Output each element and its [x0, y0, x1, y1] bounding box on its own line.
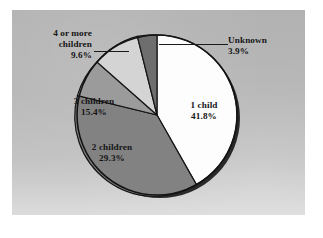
slice-label-line1: 1 child [173, 100, 235, 111]
slice-label-line1: 4 or more [26, 28, 92, 39]
slice-label-line1: 3 children [58, 96, 130, 107]
slice-label-value: 15.4% [58, 107, 130, 118]
slice-label-one-child: 1 child 41.8% [173, 100, 235, 122]
slice-label-value: 41.8% [173, 111, 235, 122]
slice-label-value: 3.9% [228, 46, 267, 57]
slice-label-value: 29.3% [76, 153, 148, 164]
slice-label-line1: Unknown [228, 35, 267, 46]
leader-line-four-or-more-children [94, 51, 129, 52]
slice-label-two-children: 2 children 29.3% [76, 142, 148, 164]
slice-label-value: 9.6% [26, 50, 92, 61]
pie-chart-figure: 4 or more children 9.6% Unknown 3.9% 3 c… [0, 0, 323, 238]
leader-line-unknown [159, 44, 228, 45]
slice-label-three-children: 3 children 15.4% [58, 96, 130, 118]
slice-label-four-or-more-children: 4 or more children 9.6% [26, 28, 92, 61]
slice-label-line2: children [26, 39, 92, 50]
slice-label-line1: 2 children [76, 142, 148, 153]
slice-label-unknown: Unknown 3.9% [228, 35, 267, 57]
